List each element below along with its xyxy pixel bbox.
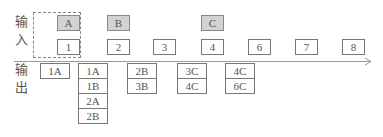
- output-cell: 1A: [78, 63, 108, 79]
- output-cell: 4C: [177, 78, 207, 94]
- output-column-5: 4C 6C: [225, 63, 255, 94]
- output-column-4: 3C 4C: [177, 63, 207, 94]
- output-column-2: 1A 1B 2A 2B: [78, 63, 108, 124]
- output-label-char-2: 出: [13, 81, 29, 95]
- input-number-3: 3: [153, 39, 176, 55]
- input-letter-c: C: [201, 15, 224, 31]
- input-label-char-2: 入: [13, 33, 29, 47]
- input-number-6: 6: [248, 39, 271, 55]
- output-cell: 1B: [78, 78, 108, 94]
- output-cell: 2B: [78, 108, 108, 124]
- output-label-char-1: 输: [13, 63, 29, 77]
- output-cell: 2B: [127, 63, 157, 79]
- input-number-7: 7: [295, 39, 318, 55]
- axis-arrow-icon: [364, 57, 372, 66]
- output-cell: 1A: [40, 63, 70, 79]
- input-letter-b: B: [107, 15, 130, 31]
- output-cell: 6C: [225, 78, 255, 94]
- output-cell: 2A: [78, 93, 108, 109]
- input-number-8: 8: [342, 39, 365, 55]
- output-column-1: 1A: [40, 63, 70, 79]
- output-column-3: 2B 3B: [127, 63, 157, 94]
- input-label-char-1: 输: [13, 15, 29, 29]
- input-number-2: 2: [107, 39, 130, 55]
- input-number-1: 1: [57, 39, 80, 55]
- output-cell: 3B: [127, 78, 157, 94]
- input-number-4: 4: [201, 39, 224, 55]
- time-axis: [14, 61, 370, 62]
- output-cell: 4C: [225, 63, 255, 79]
- output-cell: 3C: [177, 63, 207, 79]
- input-letter-a: A: [57, 15, 80, 31]
